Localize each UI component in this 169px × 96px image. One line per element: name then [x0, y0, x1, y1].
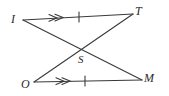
vertex-label-I: I [11, 13, 15, 25]
segment-OM [34, 80, 142, 82]
vertex-label-S: S [78, 53, 84, 65]
vertex-label-T: T [135, 5, 142, 17]
segment-IT [23, 14, 133, 20]
segment-IM [23, 20, 142, 80]
vertex-label-M: M [144, 72, 154, 84]
geometry-figure: I T O M S [0, 0, 169, 96]
segment-OT [34, 14, 133, 82]
vertex-label-O: O [21, 78, 30, 90]
